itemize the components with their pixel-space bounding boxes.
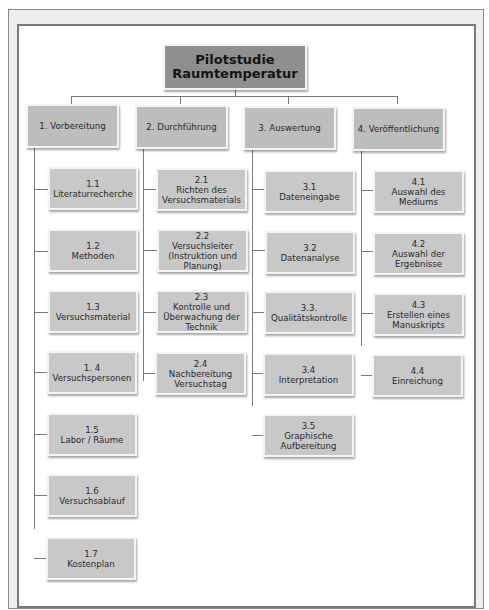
node-label: Einreichung (392, 376, 443, 386)
node-label: (Instruktion und (168, 251, 237, 261)
node-number: 2.3 (195, 292, 209, 302)
node-label: Labor / Räume (61, 435, 124, 445)
connector (252, 250, 265, 251)
node-label: Kontrolle und (173, 302, 230, 312)
node-number: 3.1 (303, 182, 317, 192)
node-number: 3.5 (302, 421, 316, 431)
branch-label: 4. Veröffentlichung (358, 124, 439, 134)
node-number: 2.4 (194, 359, 208, 369)
node-number: 2.2 (196, 231, 210, 241)
node-label: Überwachung der (163, 312, 239, 322)
branch-node-veroeffentlichung: 4. Veröffentlichung (352, 107, 445, 151)
node-label: Versuchsleiter (172, 241, 233, 251)
connector (34, 312, 49, 313)
connector (34, 189, 49, 190)
node-label: Dateneingabe (279, 192, 340, 202)
node-number: 1.6 (85, 486, 99, 496)
node-number: 4.4 (411, 366, 425, 376)
connector (143, 189, 157, 190)
connector (252, 148, 253, 406)
node-label: Versuchspersonen (53, 373, 132, 383)
child-node-1-7: 1.7Kostenplan (46, 537, 136, 580)
child-node-4-4: 4.4Einreichung (372, 354, 463, 397)
connector (34, 148, 35, 529)
child-node-3-3: 3.3.Qualitätskontrolle (264, 291, 354, 334)
node-number: 3.3. (301, 303, 317, 313)
node-number: 4.3 (412, 300, 426, 310)
node-number: 3.4 (302, 365, 316, 375)
child-node-1-1: 1.1Literaturrecherche (48, 167, 138, 210)
connector (71, 96, 72, 104)
node-number: 1.7 (84, 549, 98, 559)
node-number: 1.5 (85, 425, 99, 435)
child-node-2-2: 2.2Versuchsleiter(Instruktion undPlanung… (157, 229, 248, 272)
node-label: Graphische (284, 431, 333, 441)
child-node-1-5: 1.5Labor / Räume (47, 413, 137, 456)
connector (143, 250, 157, 251)
child-node-1-4: 1. 4Versuchspersonen (47, 351, 137, 394)
node-label: Qualitätskontrolle (271, 313, 347, 323)
child-node-2-4: 2.4NachbereitungVersuchstag (155, 352, 246, 395)
node-label: Aufbereitung (281, 441, 337, 451)
node-number: 1.1 (86, 179, 100, 189)
connector (288, 96, 289, 104)
node-label: Mediums (399, 197, 438, 207)
node-label: Kostenplan (67, 559, 115, 569)
node-label: Ergebnisse (395, 259, 442, 269)
node-number: 2.1 (195, 175, 209, 185)
root-node: Pilotstudie Raumtemperatur (163, 44, 307, 90)
node-label: Methoden (72, 251, 115, 261)
connector (71, 96, 398, 97)
node-label: Interpretation (279, 375, 338, 385)
node-number: 4.1 (412, 177, 426, 187)
node-label: Manuskripts (392, 320, 444, 330)
child-node-1-2: 1.2Methoden (48, 229, 138, 272)
node-label: Versuchsablauf (59, 496, 124, 506)
node-label: Datenanalyse (280, 253, 339, 263)
branch-label: 2. Durchführung (146, 122, 216, 132)
child-node-4-3: 4.3Erstellen einesManuskripts (373, 293, 464, 336)
child-node-2-1: 2.1Richten desVersuchsmaterials (156, 168, 247, 211)
node-label: Versuchstag (174, 379, 227, 389)
node-label: Technik (185, 322, 217, 332)
child-node-3-1: 3.1Dateneingabe (264, 170, 355, 213)
node-label: Versuchsmaterial (56, 312, 130, 322)
node-label: Auswahl der (392, 249, 445, 259)
child-node-3-2: 3.2Datenanalyse (265, 231, 355, 274)
connector (361, 148, 362, 346)
branch-node-vorbereitung: 1. Vorbereitung (26, 104, 119, 148)
connector (143, 312, 157, 313)
node-label: Erstellen eines (387, 310, 450, 320)
node-label: Richten des (176, 185, 227, 195)
branch-label: 1. Vorbereitung (39, 121, 105, 131)
connector (397, 96, 398, 104)
branch-node-auswertung: 3. Auswertung (243, 106, 336, 150)
node-number: 4.2 (412, 239, 426, 249)
connector (34, 251, 49, 252)
node-number: 1. 4 (84, 363, 100, 373)
child-node-1-3: 1.3Versuchsmaterial (48, 290, 138, 333)
child-node-3-5: 3.5GraphischeAufbereitung (263, 414, 354, 457)
node-label: Auswahl des (392, 187, 446, 197)
root-title-line1: Pilotstudie (195, 53, 274, 67)
connector (143, 148, 144, 381)
node-number: 3.2 (303, 243, 317, 253)
node-number: 1.3 (86, 302, 100, 312)
branch-label: 3. Auswertung (258, 123, 320, 133)
child-node-4-1: 4.1Auswahl desMediums (373, 170, 464, 213)
child-node-1-6: 1.6Versuchsablauf (47, 474, 137, 517)
child-node-2-3: 2.3Kontrolle undÜberwachung derTechnik (156, 290, 247, 333)
child-node-3-4: 3.4Interpretation (263, 353, 354, 396)
node-label: Literaturrecherche (53, 189, 133, 199)
node-label: Versuchsmaterials (162, 195, 241, 205)
node-number: 1.2 (86, 241, 100, 251)
branch-node-durchfuehrung: 2. Durchführung (135, 105, 228, 149)
node-label: Nachbereitung (169, 369, 232, 379)
node-label: Planung) (184, 261, 222, 271)
connector (180, 96, 181, 104)
root-title-line2: Raumtemperatur (172, 67, 297, 81)
child-node-4-2: 4.2Auswahl derErgebnisse (373, 232, 464, 275)
